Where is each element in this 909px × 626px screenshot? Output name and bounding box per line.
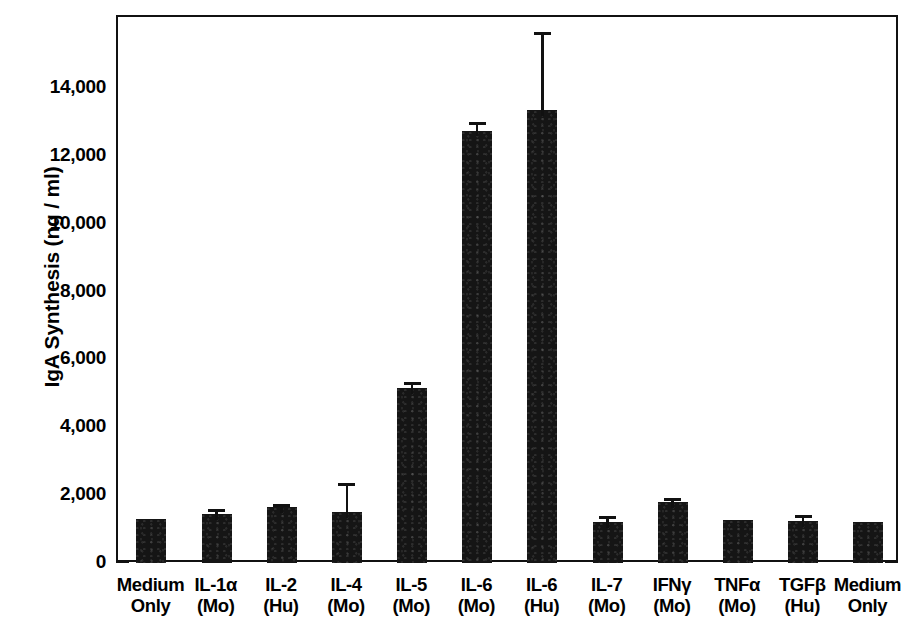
x-axis-label-line1: Medium [834,574,902,595]
bar [202,514,232,563]
x-axis-label-line1: IL-1α [195,574,237,595]
error-bar-cap [273,504,290,507]
y-tick-label: 12,000 [8,144,106,166]
x-axis-label-line1: TGFβ [779,574,826,595]
plot-area [116,15,898,562]
y-tick-label: 2,000 [8,483,106,505]
x-axis-label-line1: IL-5 [396,574,427,595]
bar [397,388,427,562]
x-axis-label-line1: IL-6 [461,574,492,595]
y-tick-label: 0 [8,551,106,573]
bar [853,522,883,562]
bar [332,512,362,563]
bar [267,507,297,563]
error-bar-cap [208,509,225,512]
error-bar-stem [346,483,349,518]
error-bar-stem [541,32,544,116]
x-axis-label-line1: IL-7 [591,574,622,595]
error-bar-cap [534,32,551,35]
x-axis-label-line1: IL-2 [265,574,296,595]
error-bar-cap [664,498,681,501]
x-axis-label-line1: IL-6 [526,574,557,595]
error-bar-cap [338,483,355,486]
bar [462,131,492,563]
bar [593,522,623,563]
bar [788,521,818,563]
x-axis-label-line1: IFNγ [653,574,692,595]
x-axis-label: MediumOnly [822,574,909,616]
bar [136,519,166,562]
y-tick-label: 6,000 [8,347,106,369]
x-axis-label-line1: TNFα [714,574,760,595]
y-tick-label: 14,000 [8,76,106,98]
error-bar-cap [469,122,486,125]
error-bar-cap [795,515,812,518]
y-tick-label: 8,000 [8,280,106,302]
x-axis-label-line1: IL-4 [330,574,361,595]
y-tick-label: 4,000 [8,415,106,437]
bar [527,110,557,563]
y-tick-label: 10,000 [8,212,106,234]
error-bar-cap [404,382,421,385]
figure-container: IgA Synthesis (ng / ml) 02,0004,0006,000… [0,0,909,626]
x-axis-label-line2: Only [822,595,909,616]
error-bar-cap [599,516,616,519]
bar [723,520,753,562]
bar [658,502,688,563]
